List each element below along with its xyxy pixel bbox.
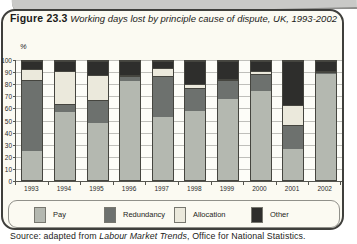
bar-1996: [119, 60, 141, 181]
legend-item-allocation: Allocation: [174, 206, 226, 223]
segment-pay-2001: [283, 149, 303, 180]
y-tick-90: [13, 72, 16, 73]
segment-pay-1999: [218, 99, 238, 180]
legend-item-redundancy: Redundancy: [104, 206, 165, 223]
segment-pay-2002: [316, 74, 336, 180]
x-tick-10: [340, 182, 341, 185]
y-tick-20: [13, 157, 16, 158]
x-tick-label-2000: 2000: [243, 185, 276, 192]
y-tick-label-40: 40: [5, 129, 12, 136]
x-tick-8: [276, 182, 277, 185]
x-tick-label-1998: 1998: [178, 185, 211, 192]
x-tick-label-2002: 2002: [308, 185, 341, 192]
source-publication: Labour Market Trends: [99, 231, 187, 241]
x-tick-4: [145, 182, 146, 185]
segment-other-1993: [22, 61, 42, 69]
x-tick-label-1996: 1996: [113, 185, 146, 192]
x-tick-3: [113, 182, 114, 185]
segment-redundancy-1994: [55, 104, 75, 112]
legend-label-redundancy: Redundancy: [123, 210, 165, 219]
y-tick-label-60: 60: [5, 105, 12, 112]
y-tick-40: [13, 133, 16, 134]
y-tick-label-30: 30: [5, 141, 12, 148]
x-tick-7: [243, 182, 244, 185]
segment-allocation-1993: [22, 69, 42, 80]
y-tick-80: [13, 84, 16, 85]
y-tick-label-70: 70: [5, 93, 12, 100]
bar-2002: [315, 60, 337, 181]
segment-pay-1997: [153, 117, 173, 180]
x-tick-2: [80, 182, 81, 185]
segment-other-1998: [185, 61, 205, 84]
legend-item-pay: Pay: [34, 206, 66, 223]
segment-pay-1995: [88, 123, 108, 180]
y-tick-label-10: 10: [5, 165, 12, 172]
y-axis-unit-label: %: [20, 42, 27, 51]
segment-other-2002: [316, 61, 336, 71]
x-tick-label-1999: 1999: [211, 185, 244, 192]
source-note: Source: adapted from Labour Market Trend…: [10, 231, 345, 241]
segment-other-1995: [88, 61, 108, 75]
segment-other-2000: [251, 61, 271, 71]
source-prefix: Source: adapted from: [10, 231, 99, 241]
segment-other-1994: [55, 61, 75, 71]
y-tick-label-100: 100: [1, 57, 12, 64]
x-tick-6: [211, 182, 212, 185]
legend-swatch-pay: [34, 207, 46, 223]
segment-redundancy-1995: [88, 100, 108, 123]
segment-redundancy-1999: [218, 80, 238, 99]
segment-redundancy-1998: [185, 88, 205, 111]
segment-allocation-1995: [88, 75, 108, 100]
x-tick-label-1994: 1994: [48, 185, 81, 192]
figure-caption: Working days lost by principle cause of …: [70, 13, 337, 24]
y-tick-50: [13, 121, 16, 122]
x-tick-label-1997: 1997: [145, 185, 178, 192]
legend-label-pay: Pay: [53, 210, 66, 219]
segment-pay-2000: [251, 91, 271, 180]
y-tick-100: [13, 60, 16, 61]
legend-label-other: Other: [270, 210, 289, 219]
y-tick-60: [13, 108, 16, 109]
legend-item-other: Other: [251, 206, 289, 223]
bar-1998: [184, 60, 206, 181]
segment-other-1999: [218, 61, 238, 79]
segment-redundancy-1993: [22, 80, 42, 151]
y-tick-label-20: 20: [5, 153, 12, 160]
segment-redundancy-2000: [251, 74, 271, 91]
x-tick-label-1995: 1995: [80, 185, 113, 192]
x-axis: 1993199419951996199719981999200020012002: [15, 182, 341, 194]
bar-1994: [54, 60, 76, 181]
segment-allocation-1997: [153, 68, 173, 76]
x-tick-9: [308, 182, 309, 185]
legend: PayRedundancyAllocationOther: [8, 200, 340, 228]
segment-other-1996: [120, 61, 140, 75]
segment-redundancy-2001: [283, 125, 303, 149]
legend-swatch-allocation: [174, 207, 186, 223]
segment-pay-1993: [22, 151, 42, 180]
bar-2001: [282, 60, 304, 181]
y-tick-label-50: 50: [5, 117, 12, 124]
y-tick-30: [13, 145, 16, 146]
x-tick-5: [178, 182, 179, 185]
y-tick-10: [13, 169, 16, 170]
bar-2000: [250, 60, 272, 181]
legend-swatch-redundancy: [104, 207, 116, 223]
segment-redundancy-1997: [153, 76, 173, 116]
segment-other-2001: [283, 61, 303, 105]
y-tick-0: [13, 181, 16, 182]
segment-other-1997: [153, 61, 173, 68]
x-tick-label-1993: 1993: [15, 185, 48, 192]
segment-pay-1994: [55, 112, 75, 180]
legend-swatch-other: [251, 207, 263, 223]
y-axis: 0102030405060708090100: [0, 60, 13, 181]
source-suffix: , Office for National Statistics.: [187, 231, 306, 241]
figure-title: Figure 23.3 Working days lost by princip…: [10, 13, 340, 25]
y-tick-70: [13, 96, 16, 97]
bar-1999: [217, 60, 239, 181]
segment-allocation-2001: [283, 105, 303, 125]
y-tick-label-0: 0: [8, 178, 12, 185]
bar-1997: [152, 60, 174, 181]
bar-1995: [87, 60, 109, 181]
plot-area: [15, 60, 342, 182]
y-tick-label-80: 80: [5, 81, 12, 88]
